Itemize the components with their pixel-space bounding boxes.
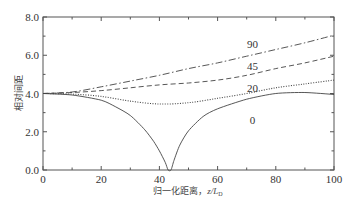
x-tick-label: 60 xyxy=(212,173,224,185)
x-axis-label: 归一化距离，z/LD xyxy=(153,185,223,197)
x-tick-label: 40 xyxy=(154,173,166,185)
data-series xyxy=(43,35,334,171)
y-tick-label: 6.0 xyxy=(25,49,39,61)
y-tick-label: 8.0 xyxy=(25,11,39,23)
x-tick-label: 20 xyxy=(96,173,108,185)
y-tick-label: 2.0 xyxy=(25,126,39,138)
x-axis-label-variable: z/L xyxy=(206,186,218,196)
y-tick-label: 0.0 xyxy=(25,164,39,176)
x-axis-label-main: 归一化距离， xyxy=(153,185,207,196)
plot-border xyxy=(43,17,334,170)
curve-label-0: 0 xyxy=(250,114,256,126)
x-axis-label-subscript: D xyxy=(218,191,223,197)
y-tick-label: 4.0 xyxy=(25,88,39,100)
chart: 0204060801000.02.04.06.08.0 9045200 相对间距… xyxy=(0,0,352,212)
x-tick-label: 80 xyxy=(270,173,282,185)
axis-ticks xyxy=(43,17,334,170)
curve-labels: 9045200 xyxy=(247,38,259,127)
curve-label-90: 90 xyxy=(247,38,259,50)
x-tick-label: 0 xyxy=(40,173,46,185)
series-line-0 xyxy=(43,92,334,170)
x-tick-label: 100 xyxy=(326,173,343,185)
y-axis-label: 相对间距 xyxy=(13,75,24,111)
series-line-45 xyxy=(43,56,334,93)
series-line-90 xyxy=(43,35,334,93)
axis-tick-labels: 0204060801000.02.04.06.08.0 xyxy=(25,11,343,185)
curve-label-20: 20 xyxy=(247,82,259,94)
curve-label-45: 45 xyxy=(247,60,259,72)
plot-frame xyxy=(43,17,334,170)
